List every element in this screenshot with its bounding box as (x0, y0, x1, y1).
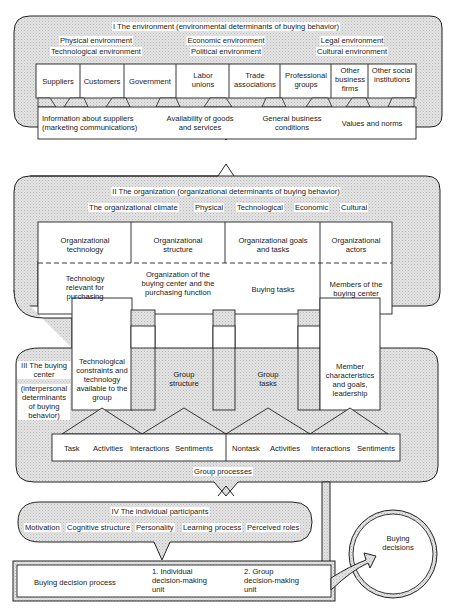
group-factor-members: Member characteristics and goals, leader… (321, 362, 379, 398)
organization-title: II The organization (organizational dete… (111, 187, 340, 196)
env-technological: Technological environment (50, 47, 142, 56)
actor-government: Government (125, 77, 175, 86)
env-legal: Legal environment (320, 36, 384, 45)
group-factor-structure: Group structure (161, 370, 207, 388)
actor-other-business-firms: Other business firms (332, 66, 368, 93)
climate-label: The organizational climate (88, 203, 179, 212)
org-actors-header: Organizational actors (326, 236, 386, 254)
org-technology-header: Organizational technology (55, 236, 115, 254)
task-label: Task (64, 444, 80, 453)
org-goals-header: Organizational goals and tasks (238, 236, 308, 254)
diagram-structure (0, 0, 450, 609)
climate-technological: Technological (236, 203, 284, 212)
group-factor-tasks: Group tasks (248, 370, 288, 388)
decision-process-label: Buying decision process (34, 578, 116, 587)
org-technology-sub: Technology relevant for purchasing (57, 274, 113, 301)
env-physical: Physical environment (59, 36, 133, 45)
env-cultural: Cultural environment (316, 47, 388, 56)
buying-decisions-label: Buying decisions (381, 534, 415, 552)
env-political: Political environment (190, 47, 262, 56)
factor-motivation: Motivation (24, 523, 61, 532)
factor-perceived-roles: Perceived roles (246, 523, 300, 532)
env-economic: Economic environment (186, 36, 265, 45)
climate-economic: Economic (294, 203, 329, 212)
actor-trade-associations: Trade associations (230, 71, 280, 89)
buying-center-title: III The buying center (17, 361, 71, 379)
org-structure-header: Organizational structure (148, 236, 208, 254)
group-factor-technology: Technological constraints and technology… (74, 357, 130, 402)
actor-suppliers: Suppliers (37, 77, 79, 86)
influence-availability: Availability of goods and services (165, 114, 235, 132)
actor-other-social-institutions: Other social institutions (369, 66, 415, 84)
influence-business-conditions: General business conditions (259, 114, 325, 132)
nontask-activities: Activities (270, 444, 300, 453)
actor-professional-groups: Professional groups (281, 71, 331, 89)
buying-center-subtitle: (interpersonal determinants of buying be… (18, 384, 70, 420)
org-structure-sub: Organization of the buying center and th… (140, 270, 216, 297)
task-sentiments: Sentiments (175, 444, 213, 453)
nontask-label: Nontask (232, 444, 260, 453)
task-activities: Activities (93, 444, 123, 453)
factor-cognitive-structure: Cognitive structure (66, 523, 131, 532)
factor-learning-process: Learning process (182, 523, 242, 532)
individual-title: IV The individual participants (111, 507, 210, 516)
actor-labor-unions: Labor unions (186, 71, 220, 89)
factor-personality: Personality (135, 523, 175, 532)
group-unit: 2. Group decision-making unit (244, 567, 302, 594)
influence-values-norms: Values and norms (342, 119, 403, 128)
task-interactions: Interactions (130, 444, 169, 453)
group-processes-label: Group processes (193, 467, 253, 476)
environment-title: I The environment (environmental determi… (112, 22, 340, 31)
individual-unit: 1. Individual decision-making unit (152, 567, 210, 594)
nontask-sentiments: Sentiments (357, 444, 395, 453)
org-actors-sub: Members of the buying center (326, 280, 386, 298)
nontask-interactions: Interactions (311, 444, 350, 453)
actor-customers: Customers (81, 77, 123, 86)
influence-information: Information about suppliers (marketing c… (42, 114, 152, 132)
climate-physical: Physical (194, 203, 224, 212)
climate-cultural: Cultural (340, 203, 368, 212)
org-goals-sub: Buying tasks (251, 285, 294, 294)
